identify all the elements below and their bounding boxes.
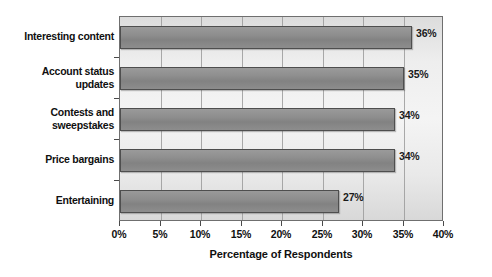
x-axis-tick-label: 25% xyxy=(302,228,342,240)
bar-value-label: 35% xyxy=(408,68,428,80)
x-axis-tick-label: 10% xyxy=(180,228,220,240)
x-axis-tick xyxy=(200,221,201,226)
y-axis-label-line: Price bargains xyxy=(2,153,114,166)
y-axis-label-line: updates xyxy=(2,78,114,91)
x-axis-tick-label: 0% xyxy=(99,228,139,240)
x-axis-tick-label: 40% xyxy=(423,228,463,240)
bar[interactable] xyxy=(120,108,395,131)
y-axis-label-line: Account status xyxy=(2,65,114,78)
bar-row xyxy=(120,181,442,221)
x-axis-tick xyxy=(160,221,161,226)
bar[interactable] xyxy=(120,67,404,90)
x-axis-tick xyxy=(403,221,404,226)
y-axis-label-line: sweepstakes xyxy=(2,119,114,132)
y-axis-category-label: Price bargains xyxy=(2,153,114,166)
y-axis-category-label: Interesting content xyxy=(2,30,114,43)
bar-value-label: 34% xyxy=(399,109,419,121)
x-axis-tick-label: 35% xyxy=(383,228,423,240)
y-axis-label-line: Entertaining xyxy=(2,194,114,207)
bar-row xyxy=(120,99,442,140)
x-axis-tick xyxy=(362,221,363,226)
x-axis-title: Percentage of Respondents xyxy=(119,248,443,260)
plot-area xyxy=(119,16,443,221)
bar[interactable] xyxy=(120,149,395,172)
y-axis-category-label: Entertaining xyxy=(2,194,114,207)
bar-value-label: 27% xyxy=(343,191,363,203)
y-axis-category-label: Account statusupdates xyxy=(2,65,114,90)
y-axis-label-line: Interesting content xyxy=(2,30,114,43)
y-axis-category-labels: Interesting contentAccount statusupdates… xyxy=(0,16,114,221)
x-axis-tick-label: 20% xyxy=(261,228,301,240)
x-axis-tick-label: 5% xyxy=(140,228,180,240)
bar[interactable] xyxy=(120,190,339,213)
bar-chart: Interesting contentAccount statusupdates… xyxy=(0,0,492,277)
x-axis-tick-label: 30% xyxy=(342,228,382,240)
bar-row xyxy=(120,17,442,58)
bar-value-label: 36% xyxy=(416,27,436,39)
x-axis-tick-label: 15% xyxy=(221,228,261,240)
x-axis-tick xyxy=(322,221,323,226)
x-axis-tick xyxy=(281,221,282,226)
x-axis-tick xyxy=(119,221,120,226)
bar[interactable] xyxy=(120,26,412,49)
bar-value-label: 34% xyxy=(399,150,419,162)
bar-row xyxy=(120,58,442,99)
x-axis-tick xyxy=(443,221,444,226)
y-axis-category-label: Contests andsweepstakes xyxy=(2,106,114,131)
x-axis-tick xyxy=(241,221,242,226)
bar-row xyxy=(120,140,442,181)
y-axis-label-line: Contests and xyxy=(2,106,114,119)
